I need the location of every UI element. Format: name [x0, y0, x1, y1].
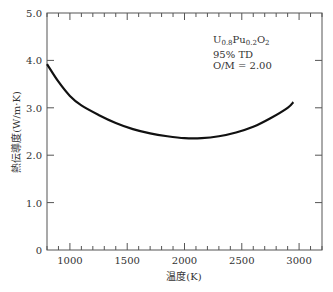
x-tick-label: 1500 [114, 255, 139, 266]
y-tick-label: 0 [36, 245, 42, 256]
legend-annotation: U0.8Pu0.2O2 95% TD O/M = 2.00 [213, 34, 272, 71]
y-tick-label: 3.0 [26, 103, 42, 114]
plot-axes [47, 13, 322, 250]
thermal-conductivity-chart: 1000150020002500300001.02.03.04.05.0 温度(… [0, 0, 333, 292]
y-tick-label: 5.0 [26, 8, 42, 19]
x-tick-label: 1000 [57, 255, 82, 266]
annotation-composition: U0.8Pu0.2O2 [213, 34, 272, 49]
y-tick-label: 1.0 [26, 198, 42, 209]
annotation-om-ratio: O/M = 2.00 [213, 60, 272, 71]
plot-frame [47, 13, 322, 250]
x-tick-label: 2000 [172, 255, 197, 266]
x-axis-label: 温度(K) [166, 270, 201, 282]
y-tick-label: 4.0 [26, 55, 42, 66]
y-axis-label: 熱伝導度(W/m·K) [10, 91, 22, 173]
x-tick-label: 2500 [229, 255, 254, 266]
y-tick-label: 2.0 [26, 150, 42, 161]
annotation-density: 95% TD [213, 49, 272, 60]
conductivity-curve [47, 64, 293, 138]
x-tick-label: 3000 [286, 255, 311, 266]
